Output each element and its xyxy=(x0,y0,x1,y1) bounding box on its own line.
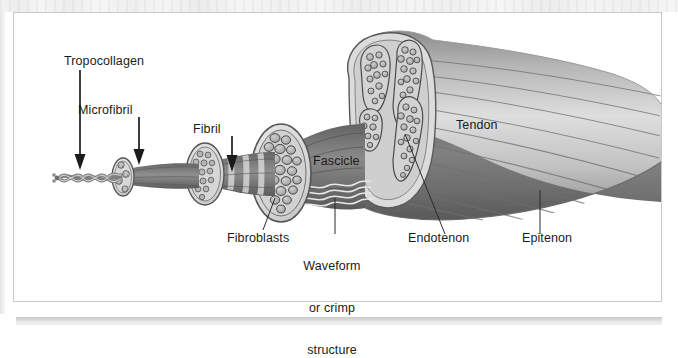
label-waveform-crimp: Waveform or crimp structure xyxy=(272,231,392,358)
label-endotenon: Endotenon xyxy=(408,231,469,245)
label-tendon: Tendon xyxy=(456,118,498,132)
microfibril-pointer-arrow xyxy=(134,117,145,165)
label-waveform-line1: Waveform xyxy=(272,259,392,273)
label-tropocollagen: Tropocollagen xyxy=(64,54,144,68)
tropocollagen-pointer-arrow xyxy=(75,70,86,170)
scan-artifact-texture xyxy=(0,0,678,12)
page-left-edge xyxy=(0,12,5,314)
label-microfibril: Microfibril xyxy=(78,103,133,117)
label-waveform-line2: or crimp xyxy=(272,301,392,315)
label-waveform-line3: structure xyxy=(272,343,392,357)
label-fascicle: Fascicle xyxy=(313,154,360,168)
label-fibril: Fibril xyxy=(193,122,221,136)
label-epitenon: Epitenon xyxy=(522,231,572,245)
tropocollagen-helix xyxy=(52,173,121,183)
microfibril-structure xyxy=(112,158,199,196)
